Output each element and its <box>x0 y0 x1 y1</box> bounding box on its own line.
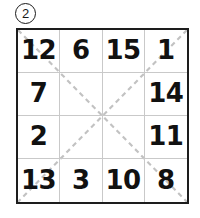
problem-number-badge: 2 <box>15 3 36 24</box>
table-cell[interactable] <box>60 73 102 116</box>
cell-value: 1 <box>157 37 175 63</box>
table-cell[interactable]: 13 <box>18 159 60 202</box>
cell-value: 15 <box>106 37 141 63</box>
table-cell[interactable]: 11 <box>145 116 187 159</box>
table-cell[interactable]: 3 <box>60 159 102 202</box>
cell-value: 11 <box>148 123 183 149</box>
cell-value: 13 <box>21 167 56 193</box>
worksheet-figure: 2 12 6 15 1 7 14 2 11 13 3 10 8 <box>0 0 200 218</box>
table-cell[interactable]: 12 <box>18 30 60 73</box>
cell-value: 8 <box>157 167 175 193</box>
table-cell[interactable]: 1 <box>145 30 187 73</box>
cell-value: 12 <box>21 37 56 63</box>
table-cell[interactable]: 14 <box>145 73 187 116</box>
table-cell[interactable]: 6 <box>60 30 102 73</box>
grid-cells: 12 6 15 1 7 14 2 11 13 3 10 8 <box>18 30 187 202</box>
cell-value: 14 <box>148 80 183 106</box>
table-cell[interactable]: 15 <box>103 30 145 73</box>
table-cell[interactable] <box>103 73 145 116</box>
cell-value: 7 <box>30 80 48 106</box>
table-cell[interactable]: 8 <box>145 159 187 202</box>
magic-square-grid: 12 6 15 1 7 14 2 11 13 3 10 8 <box>16 28 189 204</box>
table-cell[interactable] <box>60 116 102 159</box>
table-cell[interactable]: 2 <box>18 116 60 159</box>
cell-value: 3 <box>72 167 90 193</box>
problem-number-label: 2 <box>22 7 29 20</box>
cell-value: 2 <box>30 123 48 149</box>
table-cell[interactable]: 7 <box>18 73 60 116</box>
table-cell[interactable] <box>103 116 145 159</box>
table-cell[interactable]: 10 <box>103 159 145 202</box>
cell-value: 6 <box>72 37 90 63</box>
cell-value: 10 <box>106 167 141 193</box>
